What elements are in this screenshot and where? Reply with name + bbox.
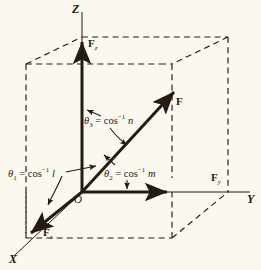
force-z-component-label: Fz xyxy=(88,38,97,52)
force-x-subscript: x xyxy=(50,233,53,241)
theta-3-subscript: 3 xyxy=(89,121,93,129)
resultant-force-label: F xyxy=(176,96,183,107)
vector-direction-cosines-figure: Z Y X O Fz Fy Fx F θ3 = cos−1 n θ2 = cos… xyxy=(0,0,261,270)
force-z-subscript: z xyxy=(95,44,98,52)
force-y-component-label: Fy xyxy=(211,172,221,186)
theta-3-function: cos xyxy=(104,115,118,126)
theta-1-subscript: 1 xyxy=(13,174,17,182)
theta-2-cosine-value: m xyxy=(148,168,156,179)
theta-2-label: θ2 = cos−1 m xyxy=(104,167,156,182)
box-edge-top-left-diagonal xyxy=(26,37,82,64)
theta-3-cosine-value: n xyxy=(128,115,133,126)
theta-2-function: cos xyxy=(124,168,138,179)
theta-2-subscript: 2 xyxy=(109,174,113,182)
theta-3-label: θ3 = cos−1 n xyxy=(84,114,133,129)
theta-3-exponent: −1 xyxy=(118,113,125,121)
force-z-letter: F xyxy=(88,37,95,49)
theta-3-vector-pointer xyxy=(110,128,127,145)
box-edge-bottom-diagonal xyxy=(172,192,228,238)
theta-1-function: cos xyxy=(28,168,42,179)
theta-3-equals: = xyxy=(95,115,101,126)
force-x-component-label: Fx xyxy=(43,227,53,241)
reference-box xyxy=(26,37,228,238)
origin-label: O xyxy=(74,194,82,205)
diagram-canvas xyxy=(0,0,261,270)
theta-1-label: θ1 = cos−1 l xyxy=(8,167,55,182)
box-edge-top-right-diagonal xyxy=(172,37,228,64)
y-axis-label: Y xyxy=(247,193,254,205)
theta-1-equals: = xyxy=(19,168,25,179)
force-y-letter: F xyxy=(211,171,218,183)
theta-1-exponent: −1 xyxy=(42,166,49,174)
theta-1-cosine-value: l xyxy=(52,168,55,179)
theta-2-exponent: −1 xyxy=(138,166,145,174)
z-axis-label: Z xyxy=(72,3,79,15)
force-y-subscript: y xyxy=(218,178,221,186)
force-x-letter: F xyxy=(43,226,50,238)
theta-2-equals: = xyxy=(115,168,121,179)
x-axis-label: X xyxy=(9,253,17,265)
